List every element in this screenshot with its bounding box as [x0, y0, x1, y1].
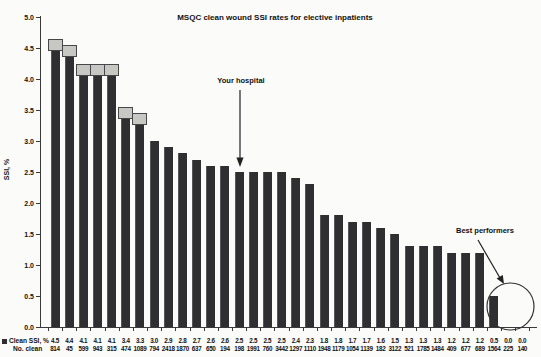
bar — [362, 222, 371, 327]
ssi-value-label: 0.0 — [514, 337, 530, 344]
y-tick — [36, 110, 40, 111]
y-tick — [36, 48, 40, 49]
x-tick — [317, 328, 318, 331]
y-tick-label: 1.0 — [10, 262, 34, 269]
bar — [107, 73, 116, 327]
x-tick — [161, 328, 162, 331]
x-tick — [62, 328, 63, 331]
bar — [305, 184, 314, 327]
bar — [390, 234, 399, 327]
x-tick — [331, 328, 332, 331]
y-tick-label: 3.0 — [10, 138, 34, 145]
x-tick — [487, 328, 488, 331]
bar — [121, 116, 130, 327]
x-tick — [246, 328, 247, 331]
bar — [192, 160, 201, 327]
y-tick-label: 4.0 — [10, 76, 34, 83]
high-outlier-cap — [118, 107, 133, 119]
bar — [249, 172, 258, 327]
bar — [150, 141, 159, 327]
high-outlier-cap — [62, 45, 77, 57]
x-tick — [374, 328, 375, 331]
x-tick — [359, 328, 360, 331]
bar — [135, 122, 144, 327]
high-outlier-cap — [132, 113, 147, 125]
x-tick — [260, 328, 261, 331]
legend-ssi-row: Clean SSI, % — [2, 337, 49, 344]
x-tick — [76, 328, 77, 331]
y-tick-label: 0.5 — [10, 293, 34, 300]
bar — [220, 166, 229, 327]
x-tick — [204, 328, 205, 331]
y-tick — [36, 172, 40, 173]
bar — [291, 178, 300, 327]
bar — [277, 172, 286, 327]
x-tick — [190, 328, 191, 331]
y-axis-label: SSI, % — [3, 150, 10, 190]
x-tick — [232, 328, 233, 331]
bar — [433, 246, 442, 327]
y-tick — [36, 265, 40, 266]
x-tick — [48, 328, 49, 331]
bar — [79, 73, 88, 327]
x-tick — [388, 328, 389, 331]
bar — [65, 54, 74, 327]
y-tick-label: 3.5 — [10, 107, 34, 114]
bar — [489, 296, 498, 327]
your-hospital-arrow — [236, 90, 243, 167]
y-tick — [36, 234, 40, 235]
bar — [405, 246, 414, 327]
chart-title: MSQC clean wound SSI rates for elective … — [95, 13, 455, 22]
x-tick — [444, 328, 445, 331]
x-tick — [473, 328, 474, 331]
ssi-bar-chart: MSQC clean wound SSI rates for elective … — [0, 0, 541, 357]
x-tick — [119, 328, 120, 331]
legend-n-label: No. clean — [13, 345, 42, 352]
x-tick — [501, 328, 502, 331]
y-tick-label: 2.0 — [10, 200, 34, 207]
y-axis-line — [40, 16, 41, 328]
x-tick — [416, 328, 417, 331]
legend-swatch-icon — [2, 339, 7, 344]
x-tick — [147, 328, 148, 331]
bar — [447, 253, 456, 327]
x-tick — [90, 328, 91, 331]
annotation-best-performers: Best performers — [450, 226, 520, 235]
bar — [376, 228, 385, 327]
x-tick — [345, 328, 346, 331]
x-tick — [289, 328, 290, 331]
x-tick — [515, 328, 516, 331]
y-tick — [36, 203, 40, 204]
high-outlier-cap — [104, 64, 119, 76]
y-tick-label: 4.5 — [10, 45, 34, 52]
legend-ssi-label: Clean SSI, % — [9, 337, 49, 344]
bar — [320, 215, 329, 327]
n-clean-label: 140 — [514, 345, 530, 352]
x-tick — [218, 328, 219, 331]
y-tick — [36, 79, 40, 80]
y-tick — [36, 296, 40, 297]
y-tick — [36, 141, 40, 142]
y-tick-label: 5.0 — [10, 14, 34, 21]
bar — [51, 48, 60, 327]
x-tick — [430, 328, 431, 331]
bar — [206, 166, 215, 327]
y-tick — [36, 17, 40, 18]
bar — [475, 253, 484, 327]
high-outlier-cap — [48, 39, 63, 51]
y-tick-label: 0.0 — [10, 324, 34, 331]
x-tick — [303, 328, 304, 331]
bar-your-hospital — [235, 172, 244, 327]
bar — [419, 246, 428, 327]
x-tick — [402, 328, 403, 331]
y-tick-label: 1.5 — [10, 231, 34, 238]
y-tick — [36, 327, 40, 328]
bar — [348, 222, 357, 327]
x-tick — [133, 328, 134, 331]
x-tick — [459, 328, 460, 331]
x-tick — [175, 328, 176, 331]
annotation-your-hospital: Your hospital — [206, 76, 276, 85]
x-tick — [529, 328, 530, 331]
x-tick — [274, 328, 275, 331]
high-outlier-cap — [76, 64, 91, 76]
